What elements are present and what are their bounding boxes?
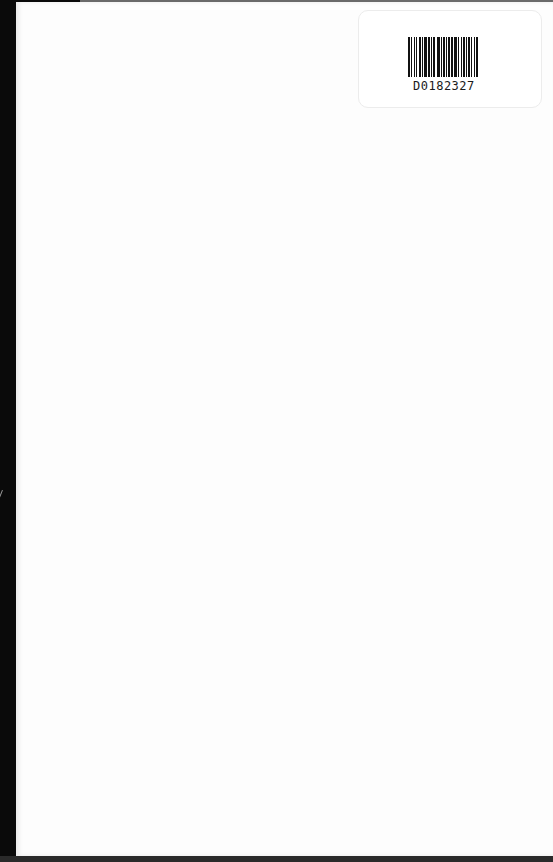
blank-endpaper: D0182327: [16, 2, 553, 856]
page-bottom-edge: [0, 856, 553, 862]
barcode-icon: [408, 37, 514, 77]
page-crease-mark: [0, 490, 3, 527]
library-barcode-label: D0182327: [358, 10, 542, 108]
barcode-bar: [476, 37, 478, 77]
scanned-page: D0182327: [0, 0, 553, 862]
barcode-number: D0182327: [413, 79, 475, 93]
